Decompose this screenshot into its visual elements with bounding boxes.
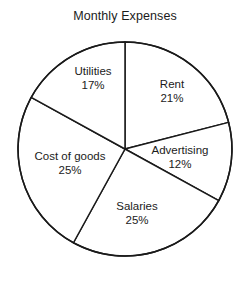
pie-slice-label: Rent21% <box>160 78 184 105</box>
pie-slice-label-value: 25% <box>116 213 158 227</box>
pie-slice-label: Utilities17% <box>74 65 111 92</box>
pie-slice-label: Advertising12% <box>152 144 209 171</box>
pie-slice-label-value: 25% <box>35 163 106 177</box>
pie-slice-label-value: 12% <box>152 157 209 171</box>
pie-slice-label: Cost of goods25% <box>35 150 106 177</box>
pie-slice-label-name: Advertising <box>152 144 209 158</box>
pie-slice-label-value: 21% <box>160 91 184 105</box>
pie-slice-label-name: Rent <box>160 78 184 92</box>
pie-chart: Monthly Expenses Rent21%Advertising12%Sa… <box>0 0 250 286</box>
pie-chart-graphic <box>0 0 250 286</box>
pie-slice-label-name: Cost of goods <box>35 150 106 164</box>
pie-slice-label-name: Utilities <box>74 65 111 79</box>
pie-slice-label: Salaries25% <box>116 200 158 227</box>
pie-slice-label-value: 17% <box>74 78 111 92</box>
pie-slice-label-name: Salaries <box>116 200 158 214</box>
